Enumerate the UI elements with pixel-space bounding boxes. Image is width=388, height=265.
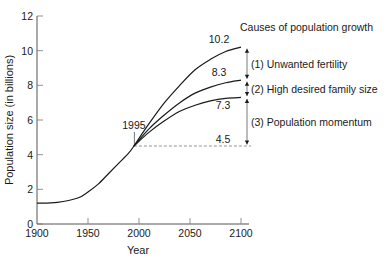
chart-canvas: 024681012 19001950200020502100 Populatio… xyxy=(0,0,388,265)
y-tick-label: 12 xyxy=(21,10,33,22)
arrow-head-icon xyxy=(245,92,249,96)
projection-end-label: 10.2 xyxy=(209,33,230,45)
projection-end-label: 7.3 xyxy=(216,99,231,111)
year-marker-label: 1995 xyxy=(122,119,146,131)
x-ticks: 19001950200020502100 xyxy=(25,218,253,239)
arrow-head-icon xyxy=(245,82,249,86)
x-tick-label: 1900 xyxy=(25,227,49,239)
legend-items: (1) Unwanted fertility(2) High desired f… xyxy=(251,58,378,128)
arrow-head-icon xyxy=(245,141,249,145)
cause-arrows xyxy=(245,49,249,145)
y-tick-label: 8 xyxy=(27,79,33,91)
y-tick-label: 6 xyxy=(27,114,33,126)
baseline-value-label: 4.5 xyxy=(216,133,231,145)
arrow-head-icon xyxy=(245,99,249,103)
x-tick-label: 2000 xyxy=(127,227,151,239)
x-tick-label: 2050 xyxy=(178,227,202,239)
x-axis-title: Year xyxy=(127,244,150,256)
legend-title: Causes of population growth xyxy=(240,21,373,33)
y-tick-label: 2 xyxy=(27,183,33,195)
historical-population-line xyxy=(37,146,134,203)
projection-series: 10.28.37.3 xyxy=(134,33,241,146)
cause-label: (3) Population momentum xyxy=(251,116,372,128)
y-axis-title: Population size (in billions) xyxy=(3,55,15,185)
y-ticks: 024681012 xyxy=(21,10,43,230)
cause-label: (2) High desired family size xyxy=(251,83,378,95)
projection-end-label: 8.3 xyxy=(212,66,227,78)
arrow-head-icon xyxy=(245,75,249,79)
arrow-head-icon xyxy=(245,49,249,53)
cause-label: (1) Unwanted fertility xyxy=(251,58,348,70)
population-growth-chart: 024681012 19001950200020502100 Populatio… xyxy=(0,0,388,265)
y-tick-label: 10 xyxy=(21,45,33,57)
y-tick-label: 4 xyxy=(27,149,33,161)
x-tick-label: 2100 xyxy=(229,227,253,239)
x-tick-label: 1950 xyxy=(76,227,100,239)
